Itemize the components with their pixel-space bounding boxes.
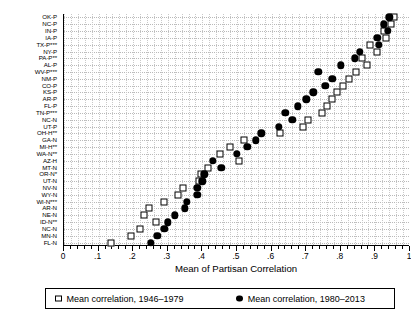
y-axis-tick-label: FL-N (44, 239, 57, 246)
x-axis-minor-tick (208, 246, 209, 249)
x-axis-minor-tick (347, 246, 348, 249)
x-axis-minor-tick (291, 246, 292, 249)
data-point-1980-2013 (294, 102, 301, 109)
x-axis-minor-tick (381, 246, 382, 249)
x-axis-minor-tick (319, 246, 320, 249)
legend-entry-1980-2013: Mean correlation, 1980–2013 (236, 293, 365, 304)
x-axis-minor-tick (354, 246, 355, 249)
x-axis-minor-tick (188, 246, 189, 249)
x-axis-title: Mean of Partisan Correlation (63, 263, 409, 275)
x-axis-minor-tick (139, 246, 140, 249)
data-point-1946-1979 (318, 109, 325, 116)
x-axis-major-tick (340, 246, 341, 251)
data-point-1980-2013 (244, 143, 251, 150)
x-axis-minor-tick (367, 246, 368, 249)
plot-area (63, 14, 409, 246)
data-point-1946-1979 (299, 123, 306, 130)
x-axis-minor-tick (361, 246, 362, 249)
data-point-1980-2013 (218, 164, 225, 171)
data-point-1946-1979 (353, 69, 360, 76)
x-axis-minor-tick (250, 246, 251, 249)
x-axis-tick-label: .8 (336, 251, 343, 262)
data-point-1980-2013 (328, 75, 335, 82)
data-point-1946-1979 (137, 225, 144, 232)
data-point-1946-1979 (277, 130, 284, 137)
x-axis-tick-label: .1 (94, 251, 101, 262)
x-axis-major-tick (98, 246, 99, 251)
data-point-1946-1979 (107, 239, 114, 246)
data-point-1980-2013 (384, 27, 391, 34)
x-axis-minor-tick (105, 246, 106, 249)
x-axis-minor-tick (91, 246, 92, 249)
data-point-1980-2013 (309, 89, 316, 96)
x-axis-tick-label: 0 (61, 251, 66, 262)
data-point-1946-1979 (227, 144, 234, 151)
legend-entry-1946-1979: Mean correlation, 1946–1979 (55, 293, 184, 304)
data-point-1980-2013 (315, 68, 322, 75)
x-axis-minor-tick (153, 246, 154, 249)
data-point-1946-1979 (382, 34, 389, 41)
data-point-1946-1979 (152, 219, 159, 226)
x-axis-major-tick (409, 246, 410, 251)
data-point-1980-2013 (161, 225, 168, 232)
data-point-1946-1979 (363, 62, 370, 69)
x-axis-minor-tick (257, 246, 258, 249)
x-axis-minor-tick (395, 246, 396, 249)
x-axis-major-tick (201, 246, 202, 251)
hollow-square-marker-icon (55, 295, 62, 302)
data-point-1980-2013 (289, 116, 296, 123)
x-axis-minor-tick (181, 246, 182, 249)
data-point-1946-1979 (161, 198, 168, 205)
x-axis-minor-tick (160, 246, 161, 249)
data-point-1980-2013 (302, 96, 309, 103)
legend-label-1980-2013: Mean correlation, 1980–2013 (248, 293, 365, 304)
x-axis-minor-tick (118, 246, 119, 249)
x-axis-minor-tick (284, 246, 285, 249)
data-point-1980-2013 (258, 130, 265, 137)
x-axis-tick-label: .5 (233, 251, 240, 262)
chart-legend: Mean correlation, 1946–1979 Mean correla… (45, 288, 395, 309)
x-axis-tick-label: .7 (302, 251, 309, 262)
x-axis-major-tick (167, 246, 168, 251)
x-axis-minor-tick (229, 246, 230, 249)
x-axis-minor-tick (326, 246, 327, 249)
x-axis-tick-label: .4 (198, 251, 205, 262)
x-axis-major-tick (63, 246, 64, 251)
data-point-1980-2013 (209, 157, 216, 164)
x-axis-minor-tick (174, 246, 175, 249)
x-axis-minor-tick (70, 246, 71, 249)
x-axis-tick-label: .3 (163, 251, 170, 262)
x-axis-tick-label: .2 (129, 251, 136, 262)
data-point-1946-1979 (235, 157, 242, 164)
data-points-layer (64, 14, 409, 245)
data-point-1946-1979 (140, 212, 147, 219)
x-axis-minor-tick (312, 246, 313, 249)
x-axis-minor-tick (111, 246, 112, 249)
x-axis-tick-labels: 0.1.2.3.4.5.6.7.8.91 (63, 251, 409, 263)
data-point-1980-2013 (171, 212, 178, 219)
y-axis-label-group: OK-PNC-PIN-PIA-PTX-P***NY-PPA-P**AL-PWV-… (0, 14, 60, 246)
x-axis-minor-tick (84, 246, 85, 249)
data-point-1980-2013 (181, 205, 188, 212)
filled-circle-marker-icon (236, 295, 243, 302)
x-axis-minor-tick (215, 246, 216, 249)
x-axis-minor-tick (264, 246, 265, 249)
x-axis-major-tick (305, 246, 306, 251)
x-axis-tick-label: .6 (267, 251, 274, 262)
x-axis-minor-tick (243, 246, 244, 249)
x-axis-tick-label: 1 (407, 251, 411, 262)
x-axis-major-tick (271, 246, 272, 251)
data-point-1980-2013 (252, 137, 259, 144)
x-axis-minor-tick (146, 246, 147, 249)
x-axis-minor-tick (77, 246, 78, 249)
x-axis-minor-tick (333, 246, 334, 249)
x-axis-minor-tick (388, 246, 389, 249)
x-axis-minor-tick (402, 246, 403, 249)
x-axis-tick-label: .9 (371, 251, 378, 262)
x-axis-minor-tick (222, 246, 223, 249)
x-axis-major-tick (374, 246, 375, 251)
scatter-chart-figure: OK-PNC-PIN-PIA-PTX-P***NY-PPA-P**AL-PWV-… (0, 0, 411, 318)
data-point-1980-2013 (154, 232, 161, 239)
x-axis-minor-tick (125, 246, 126, 249)
data-point-1980-2013 (337, 61, 344, 68)
